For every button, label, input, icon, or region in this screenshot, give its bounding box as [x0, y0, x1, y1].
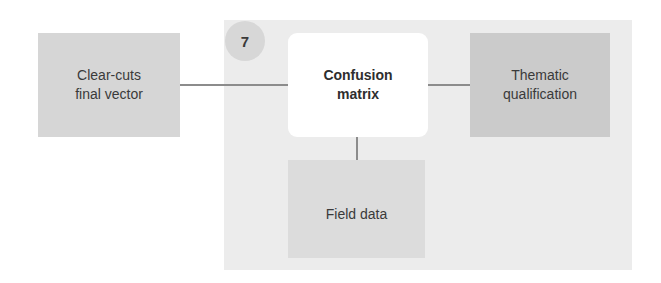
- step-badge: 7: [225, 21, 265, 61]
- node-label: Field data: [326, 205, 387, 224]
- node-clear-cuts-final-vector: Clear-cuts final vector: [38, 33, 180, 137]
- step-number: 7: [241, 33, 249, 50]
- connector-center-output: [428, 84, 470, 86]
- node-label: Confusion matrix: [323, 66, 392, 104]
- connector-center-field: [356, 137, 358, 160]
- node-thematic-qualification: Thematic qualification: [470, 33, 610, 137]
- node-confusion-matrix: Confusion matrix: [288, 33, 428, 137]
- node-label: Clear-cuts final vector: [75, 66, 143, 104]
- node-field-data: Field data: [288, 160, 425, 258]
- node-label: Thematic qualification: [503, 66, 577, 104]
- connector-input-center: [180, 84, 288, 86]
